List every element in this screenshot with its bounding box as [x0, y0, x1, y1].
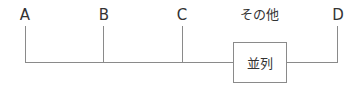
label-c: C — [177, 7, 187, 23]
label-d: D — [332, 7, 344, 23]
line-c — [182, 26, 183, 63]
label-a: A — [20, 7, 30, 23]
baseline-left — [25, 62, 234, 63]
parallel-box: 並列 — [233, 42, 287, 83]
label-other: その他 — [240, 7, 279, 23]
line-a — [25, 26, 26, 63]
baseline-right — [286, 62, 338, 63]
parallel-box-label: 並列 — [247, 53, 273, 72]
line-d — [337, 26, 338, 63]
label-b: B — [99, 7, 109, 23]
line-b — [103, 26, 104, 63]
